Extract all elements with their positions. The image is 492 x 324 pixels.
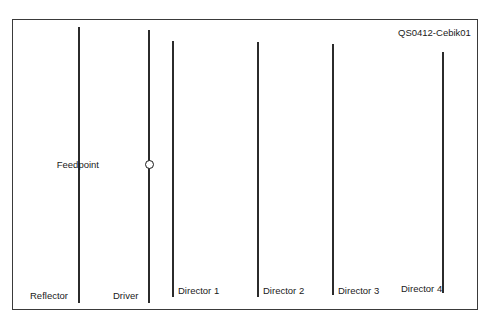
element-line-director-4 bbox=[442, 52, 444, 293]
antenna-diagram-canvas: Reflector Driver Director 1 Director 2 D… bbox=[0, 0, 492, 324]
label-director-2: Director 2 bbox=[263, 285, 304, 296]
element-line-director-3 bbox=[332, 44, 334, 295]
feedpoint-label: Feedpoint bbox=[57, 159, 99, 170]
label-driver: Driver bbox=[113, 290, 138, 301]
diagram-title: QS0412-Cebik01 bbox=[398, 27, 471, 38]
feedpoint-circle-icon bbox=[145, 160, 154, 169]
label-director-4: Director 4 bbox=[401, 283, 442, 294]
label-director-3: Director 3 bbox=[338, 285, 379, 296]
element-line-director-1 bbox=[172, 41, 174, 297]
label-director-1: Director 1 bbox=[178, 285, 219, 296]
label-reflector: Reflector bbox=[30, 290, 68, 301]
element-line-director-2 bbox=[257, 42, 259, 297]
